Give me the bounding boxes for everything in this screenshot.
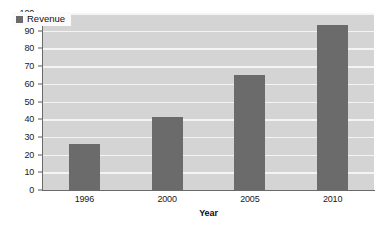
y-tick-label: 90 [24,26,34,35]
x-axis-title: Year [43,208,374,218]
x-tick-label: 1996 [75,194,94,204]
y-tick-label: 0 [29,186,34,195]
legend-item-label: Revenue [27,14,65,24]
y-tick-label: 20 [24,150,34,159]
y-axis: 0102030405060708090100 [0,13,36,190]
y-tick-label: 50 [24,97,34,106]
bar [234,75,265,190]
x-tick-label: 2005 [240,194,259,204]
y-tick-label: 30 [24,132,34,141]
x-tick-label: 2000 [158,194,177,204]
y-tick-label: 60 [24,79,34,88]
plot-area [43,13,374,190]
bars-layer [43,13,374,190]
y-tick-label: 80 [24,44,34,53]
y-tick-label: 40 [24,115,34,124]
y-tick-label: 10 [24,168,34,177]
y-tick-label: 70 [24,62,34,71]
bar [317,25,348,190]
bar [69,144,100,190]
bar [152,117,183,190]
bar-chart: 0102030405060708090100 Revenue 199620002… [0,0,389,226]
x-axis: 1996200020052010 [43,191,374,207]
chart-legend: Revenue [12,12,71,26]
x-tick-label: 2010 [323,194,342,204]
legend-swatch-icon [16,16,23,23]
